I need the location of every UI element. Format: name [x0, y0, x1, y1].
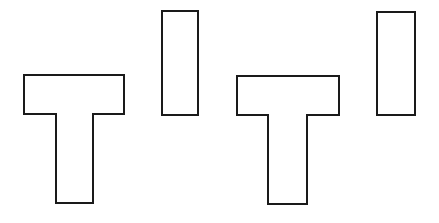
- vertical-bar-left: [162, 11, 198, 115]
- t-shape-right: [237, 76, 339, 204]
- vertical-bar-right: [377, 12, 415, 115]
- t-shape-left: [24, 75, 124, 203]
- figure-pair-left: [24, 11, 198, 203]
- diagram-canvas: [0, 0, 439, 223]
- figure-pair-right: [237, 12, 415, 204]
